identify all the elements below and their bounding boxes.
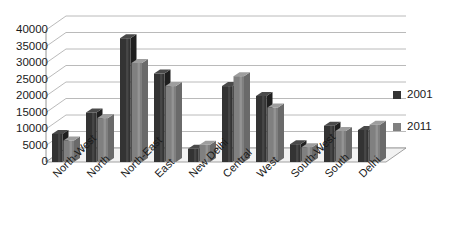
x-axis-tick-label: North (85, 153, 112, 180)
x-axis-tick-label: Delhi (357, 154, 383, 180)
bar-chart: 0500010000150002000025000300003500040000… (0, 0, 462, 231)
legend-item-label: 2001 (407, 89, 433, 101)
x-axis-tick-label: East (153, 156, 176, 179)
x-axis-tick-label: South (323, 152, 351, 180)
x-axis-tick-label: West (255, 154, 280, 179)
chart-legend: 20012011 (393, 88, 459, 152)
legend-item[interactable]: 2011 (393, 120, 459, 133)
legend-item[interactable]: 2001 (393, 88, 459, 101)
x-axis-tick-label: Central (221, 147, 254, 180)
legend-item-label: 2011 (407, 121, 432, 133)
legend-swatch-icon (393, 91, 401, 99)
legend-swatch-icon (393, 123, 401, 131)
